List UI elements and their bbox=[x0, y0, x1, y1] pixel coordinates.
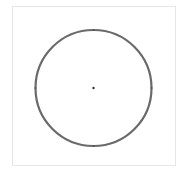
anchor-point-left[interactable] bbox=[35, 87, 37, 89]
anchor-point-bottom[interactable] bbox=[93, 145, 95, 147]
anchor-point-top[interactable] bbox=[93, 29, 95, 31]
circle-diagram bbox=[0, 0, 187, 175]
anchor-point-right[interactable] bbox=[151, 87, 153, 89]
center-point[interactable] bbox=[92, 87, 94, 89]
